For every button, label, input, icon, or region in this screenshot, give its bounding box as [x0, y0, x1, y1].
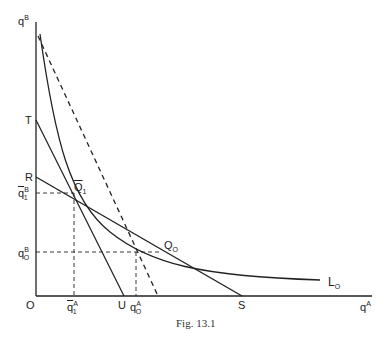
line-RS	[36, 177, 242, 296]
point-U-label: U	[118, 300, 126, 311]
point-Q0-label: QO	[164, 240, 178, 253]
point-S-label: S	[238, 300, 245, 311]
tick-q0B: qBO	[18, 246, 29, 261]
x-axis-label: qA	[360, 300, 371, 313]
curve-L0	[40, 34, 320, 280]
point-T-label: T	[25, 115, 32, 126]
figure-caption: Fig. 13.1	[176, 317, 215, 329]
point-R-label: R	[25, 172, 33, 183]
curve-L0-label: LO	[328, 276, 340, 290]
tick-q1A: qA1	[67, 300, 77, 315]
origin-label: O	[26, 300, 35, 311]
y-axis-label: qB	[18, 14, 29, 27]
line-TU	[36, 120, 124, 296]
tick-q0A: qAO	[130, 300, 141, 315]
tick-q1B: qB1	[18, 186, 28, 201]
dashed-line	[38, 36, 158, 296]
point-Q1-label: Q1	[74, 182, 86, 195]
